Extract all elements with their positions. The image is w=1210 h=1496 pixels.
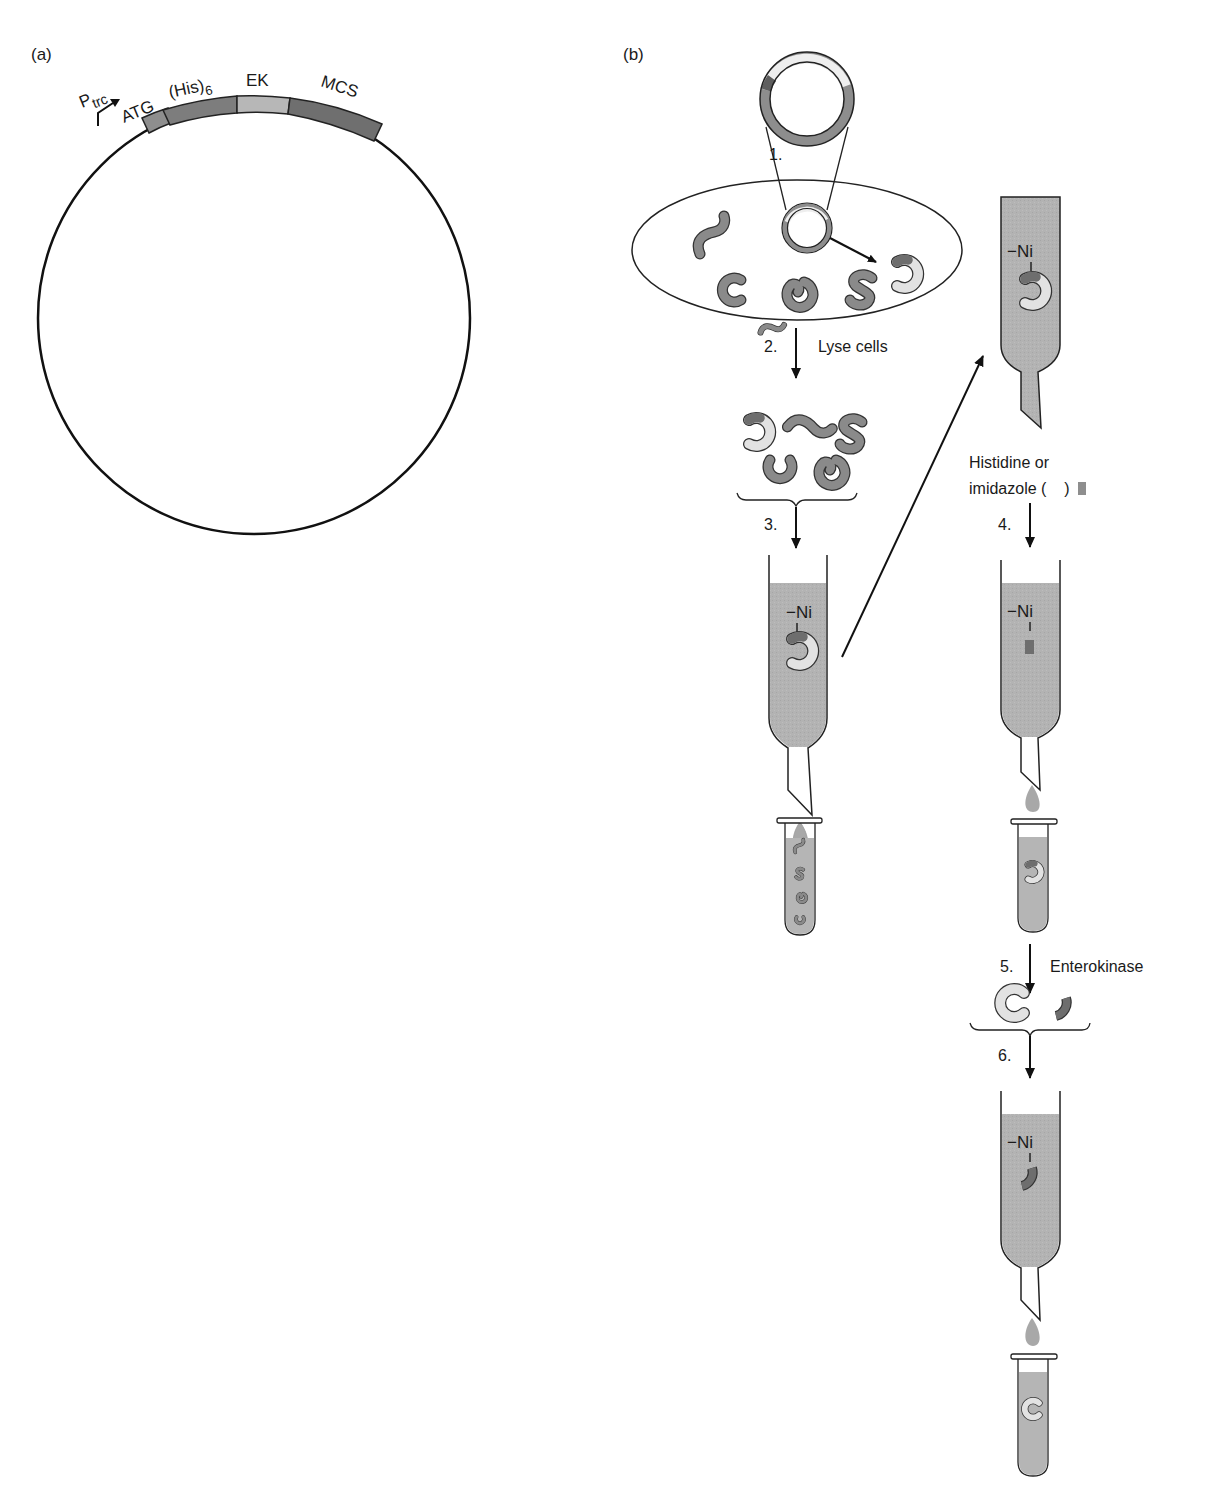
region-mcs	[288, 98, 382, 141]
step-3-number: 3.	[764, 516, 777, 533]
transfer-arrow	[842, 356, 983, 657]
host-protein	[840, 419, 862, 449]
ni-column-bound: −Ni	[1001, 197, 1060, 428]
plasmid-magnified	[760, 52, 854, 210]
step-4-reagent-line-2: imidazole ()	[969, 480, 1070, 497]
plasmid-in-cell	[782, 203, 832, 253]
his-tag-purification-diagram: (a) Ptrc ATG (His)6 EK MCS (b)	[0, 0, 1210, 1496]
host-protein	[768, 460, 792, 479]
expression-vector: Ptrc ATG (His)6 EK MCS	[38, 71, 470, 534]
bracket	[737, 493, 857, 506]
step-5-number: 5.	[1000, 958, 1013, 975]
tube-rim	[777, 818, 822, 823]
expression-arrow	[830, 238, 876, 262]
bound-imidazole	[1025, 640, 1034, 654]
ni-column-load: −Ni	[760, 316, 827, 935]
cleaved-target-protein	[1000, 989, 1024, 1017]
droplet-icon	[1025, 1318, 1039, 1346]
cleavage-products	[970, 989, 1090, 1036]
host-protein	[698, 216, 725, 254]
nickel-resin-label: −Ni	[1007, 242, 1033, 261]
host-protein	[850, 275, 872, 305]
region-ek	[237, 96, 290, 114]
step-2-label: Lyse cells	[818, 338, 888, 355]
host-protein	[722, 278, 741, 302]
cell-lysate	[737, 406, 862, 506]
step-6-number: 6.	[998, 1047, 1011, 1064]
step-5-label: Enterokinase	[1050, 958, 1143, 975]
step-2-number: 2.	[764, 338, 777, 355]
nickel-resin-label: −Ni	[1007, 1133, 1033, 1152]
bracket	[970, 1023, 1090, 1036]
step-4-reagent-line-1: Histidine or	[969, 454, 1050, 471]
ni-column-final: −Ni	[1001, 1091, 1060, 1476]
vector-backbone	[38, 102, 470, 534]
host-protein	[787, 406, 833, 448]
bacterial-cell	[632, 180, 962, 320]
his-tagged-protein	[749, 418, 770, 446]
step-4-number: 4.	[998, 516, 1011, 533]
step-1-number: 1.	[769, 146, 782, 163]
his-tag-fragment	[1056, 998, 1067, 1016]
droplet-icon	[1025, 785, 1039, 812]
nickel-resin-label: −Ni	[1007, 602, 1033, 621]
label-ek: EK	[246, 71, 269, 90]
promoter-label: Ptrc	[76, 84, 110, 115]
tube-rim	[1011, 1354, 1057, 1359]
host-protein	[787, 282, 813, 307]
ni-column-elution: −Ni	[1001, 560, 1060, 932]
panel-b-label: (b)	[623, 45, 644, 64]
label-mcs: MCS	[319, 72, 361, 102]
imidazole-icon	[1078, 482, 1086, 495]
host-protein	[819, 460, 845, 485]
his-tagged-protein	[897, 260, 918, 288]
vector-regions	[142, 96, 382, 141]
tube-rim	[1011, 819, 1057, 824]
panel-a-label: (a)	[31, 45, 52, 64]
nickel-resin-label: −Ni	[786, 603, 812, 622]
